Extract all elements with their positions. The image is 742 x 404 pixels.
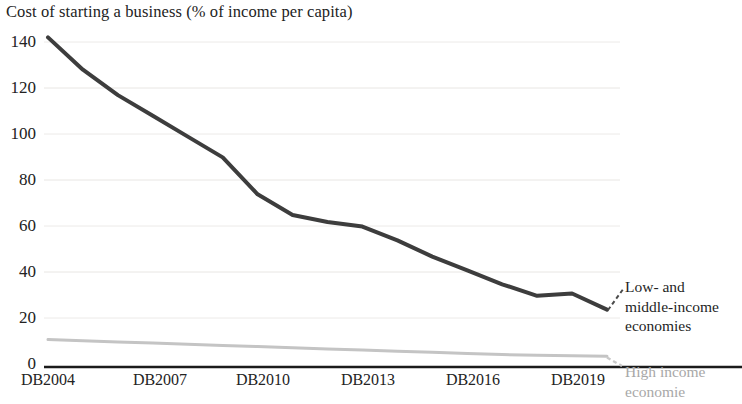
legend-lmi-line-2: middle-income bbox=[625, 297, 719, 317]
legend-high-line-1: High income bbox=[625, 362, 706, 382]
plot-area bbox=[0, 0, 742, 404]
legend-leader-line-low-middle bbox=[608, 288, 624, 310]
legend-lmi-line-1: Low- and bbox=[625, 277, 719, 297]
legend-label-high-income: High income economie bbox=[625, 362, 706, 401]
legend-label-low-and-middle-income: Low- and middle-income economies bbox=[625, 277, 719, 336]
legend-high-line-2: economie bbox=[625, 382, 706, 402]
legend-leader-line-high-income bbox=[607, 358, 622, 367]
legend-lmi-line-3: economies bbox=[625, 316, 719, 336]
series-line-high-income-economies bbox=[48, 340, 607, 357]
series-line-low-and-middle-income-economies bbox=[48, 37, 607, 309]
chart-figure: Cost of starting a business (% of income… bbox=[0, 0, 742, 404]
gridlines bbox=[44, 42, 620, 318]
